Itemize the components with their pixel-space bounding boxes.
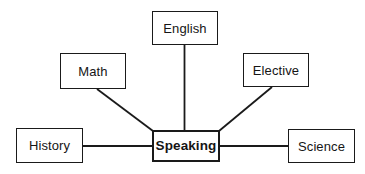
node-english[interactable]: English (152, 11, 218, 45)
node-math-label: Math (78, 65, 107, 78)
node-elective-label: Elective (253, 64, 299, 77)
node-science-label: Science (298, 140, 345, 153)
node-english-label: English (163, 22, 206, 35)
connector-elective-speaking (219, 87, 272, 131)
connector-math-speaking (97, 89, 153, 131)
node-math[interactable]: Math (60, 53, 126, 89)
node-elective[interactable]: Elective (243, 53, 309, 87)
node-history[interactable]: History (16, 128, 83, 163)
node-science[interactable]: Science (288, 129, 355, 163)
diagram-canvas: English Math Elective History Speaking S… (0, 0, 365, 174)
node-history-label: History (29, 139, 70, 152)
node-speaking-central[interactable]: Speaking (152, 130, 220, 162)
node-speaking-label: Speaking (156, 139, 217, 153)
